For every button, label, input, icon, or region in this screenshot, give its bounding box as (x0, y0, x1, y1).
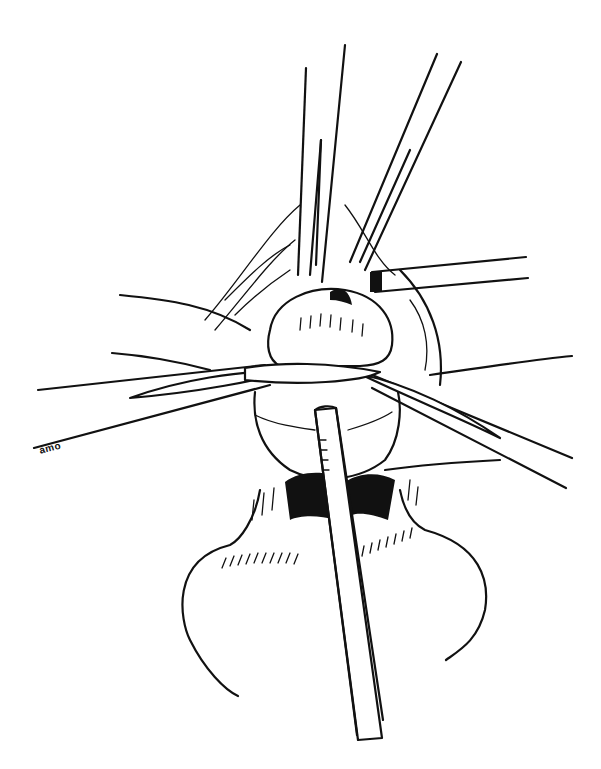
forceps-vertical (298, 45, 345, 282)
clamp-right (360, 372, 572, 488)
illustration-canvas (0, 0, 601, 769)
probe-vertical (315, 406, 383, 740)
